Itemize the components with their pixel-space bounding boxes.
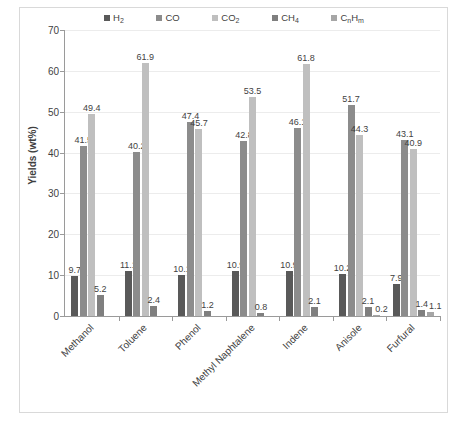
chart-figure: H2COCO2CH4CnHm Yields (wt%) 010203040506…: [0, 0, 456, 421]
plot-area: 9.741.549.45.211.140.261.92.410.147.445.…: [65, 30, 440, 316]
y-tick-label: 10: [35, 270, 59, 281]
bar[interactable]: [232, 271, 239, 316]
bar[interactable]: [427, 312, 434, 316]
legend-label: CO2: [221, 13, 239, 23]
bar[interactable]: [365, 307, 372, 316]
bar[interactable]: [71, 276, 78, 316]
bar-value-label: 40.9: [404, 139, 422, 148]
legend-swatch-icon: [272, 15, 278, 21]
bar[interactable]: [294, 128, 301, 316]
bar-value-label: 2.1: [362, 297, 375, 306]
bar[interactable]: [150, 306, 157, 316]
x-tick-mark: [279, 316, 280, 321]
bar-group: 10.147.445.71.2: [172, 30, 226, 316]
bar[interactable]: [125, 271, 132, 316]
bar[interactable]: [97, 295, 104, 316]
x-tick-mark: [226, 316, 227, 321]
bar[interactable]: [393, 284, 400, 316]
x-tick-mark: [172, 316, 173, 321]
bar[interactable]: [142, 63, 149, 316]
bar[interactable]: [418, 310, 425, 316]
y-tick-label: 60: [35, 65, 59, 76]
bar[interactable]: [311, 307, 318, 316]
bar-group: 11.140.261.92.4: [119, 30, 173, 316]
bar-group: 7.943.140.91.41.1: [386, 30, 440, 316]
bar-value-label: 2.1: [308, 297, 321, 306]
bar[interactable]: [410, 149, 417, 316]
legend-item-co2[interactable]: CO2: [212, 13, 239, 23]
bar[interactable]: [195, 129, 202, 316]
x-tick-mark: [119, 316, 120, 321]
bar-value-label: 53.5: [244, 87, 262, 96]
legend-label: CH4: [281, 13, 299, 23]
bar[interactable]: [356, 135, 363, 316]
legend-swatch-icon: [104, 15, 110, 21]
bar-value-label: 45.7: [190, 119, 208, 128]
y-tick-label: 30: [35, 188, 59, 199]
bar-value-label: 2.4: [148, 296, 161, 305]
bar[interactable]: [178, 275, 185, 316]
legend-swatch-icon: [212, 15, 218, 21]
bar-group: 10.251.744.32.10.2: [333, 30, 387, 316]
bar-value-label: 44.3: [351, 125, 369, 134]
y-tick-label: 50: [35, 106, 59, 117]
bar[interactable]: [204, 311, 211, 316]
bar-group: 10.946.161.82.1: [279, 30, 333, 316]
bar[interactable]: [187, 122, 194, 316]
bar-value-label: 61.8: [297, 54, 315, 63]
bar[interactable]: [80, 146, 87, 316]
bar[interactable]: [240, 141, 247, 316]
y-tick-label: 40: [35, 147, 59, 158]
bar-value-label: 1.1: [429, 302, 442, 311]
x-tick-mark: [333, 316, 334, 321]
chart-legend: H2COCO2CH4CnHm: [104, 10, 364, 26]
y-tick-label: 70: [35, 25, 59, 36]
y-tick-label: 20: [35, 229, 59, 240]
legend-swatch-icon: [156, 15, 162, 21]
legend-item-co[interactable]: CO: [156, 13, 179, 23]
bar-group: 10.942.853.50.8: [226, 30, 280, 316]
bar[interactable]: [303, 64, 310, 316]
bar[interactable]: [133, 152, 140, 316]
legend-swatch-icon: [331, 15, 337, 21]
bar-value-label: 1.2: [201, 301, 214, 310]
bar-value-label: 0.8: [255, 303, 268, 312]
bar-value-label: 1.4: [415, 300, 428, 309]
y-tick-label: 0: [35, 311, 59, 322]
x-tick-mark: [386, 316, 387, 321]
bar-value-label: 5.2: [94, 285, 107, 294]
bar[interactable]: [373, 315, 380, 316]
x-tick-mark: [440, 316, 441, 321]
legend-label: CO: [165, 13, 179, 23]
legend-item-h2[interactable]: H2: [104, 13, 124, 23]
bar[interactable]: [286, 271, 293, 316]
legend-item-cnhm[interactable]: CnHm: [331, 13, 364, 23]
bar-group: 9.741.549.45.2: [65, 30, 119, 316]
bar[interactable]: [401, 140, 408, 316]
bar[interactable]: [339, 274, 346, 316]
bar[interactable]: [348, 105, 355, 316]
bar-value-label: 49.4: [83, 104, 101, 113]
bar-value-label: 51.7: [342, 95, 360, 104]
bar[interactable]: [257, 313, 264, 316]
x-axis-line: [64, 316, 440, 317]
bar[interactable]: [249, 97, 256, 316]
legend-label: H2: [113, 13, 124, 23]
legend-label: CnHm: [340, 13, 364, 23]
legend-item-ch4[interactable]: CH4: [272, 13, 299, 23]
bar-value-label: 61.9: [137, 53, 155, 62]
